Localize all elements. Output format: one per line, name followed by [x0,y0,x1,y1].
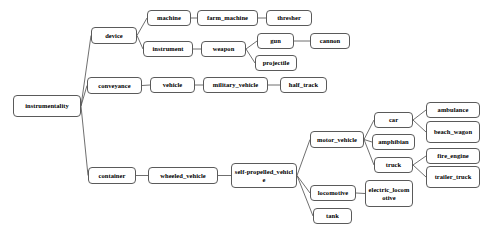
node-truck[interactable]: truck [374,157,413,173]
node-electric_locomotive[interactable]: electric_locomotive [365,180,413,207]
edge-self_propelled_vehicle-to-motor_vehicle [297,140,310,176]
node-cannon[interactable]: cannon [310,33,350,49]
hypernym-tree-diagram: instrumentalitydeviceconveyancecontainer… [0,0,493,242]
edge-motor_vehicle-to-amphibian [364,140,372,143]
node-car[interactable]: car [374,112,413,128]
node-self_propelled_vehicle[interactable]: self-propelled_vehicle [231,163,297,188]
node-device[interactable]: device [91,27,137,44]
node-trailer_truck[interactable]: trailer_truck [426,166,480,188]
node-projectile[interactable]: projectile [255,55,297,71]
edge-instrumentality-to-device [81,36,91,107]
node-locomotive[interactable]: locomotive [310,185,356,201]
edge-weapon-to-gun [246,41,257,49]
node-thresher[interactable]: thresher [266,10,312,26]
node-gun[interactable]: gun [257,33,294,49]
node-machine[interactable]: machine [147,10,191,26]
node-half_track[interactable]: half_track [280,77,327,93]
node-container[interactable]: container [88,167,136,184]
node-ambulance[interactable]: ambulance [426,102,480,118]
node-weapon[interactable]: weapon [201,41,246,57]
node-fire_engine[interactable]: fire_engine [426,148,480,164]
edge-self_propelled_vehicle-to-locomotive [297,176,310,194]
node-farm_machine[interactable]: farm_machine [197,10,258,26]
edge-truck-to-fire_engine [413,156,426,165]
edge-conveyance-to-vehicle [142,85,150,86]
node-motor_vehicle[interactable]: motor_vehicle [310,131,364,148]
node-amphibian[interactable]: amphibian [372,134,415,150]
edge-device-to-machine [137,18,147,36]
edge-car-to-beach_wagon [413,120,426,132]
edge-truck-to-trailer_truck [413,165,426,177]
edge-locomotive-to-electric_locomotive [356,193,365,194]
node-conveyance[interactable]: conveyance [87,77,142,94]
edge-weapon-to-projectile [246,49,255,63]
edge-layer [0,0,493,242]
node-instrument[interactable]: instrument [143,41,193,57]
node-wheeled_vehicle[interactable]: wheeled_vehicle [148,167,218,184]
node-military_vehicle[interactable]: military_vehicle [203,77,268,93]
edge-car-to-ambulance [413,110,426,120]
node-vehicle[interactable]: vehicle [150,77,195,93]
edge-instrumentality-to-container [81,106,88,176]
node-beach_wagon[interactable]: beach_wagon [426,121,480,143]
node-instrumentality[interactable]: instrumentality [13,95,81,117]
node-tank[interactable]: tank [313,208,352,224]
